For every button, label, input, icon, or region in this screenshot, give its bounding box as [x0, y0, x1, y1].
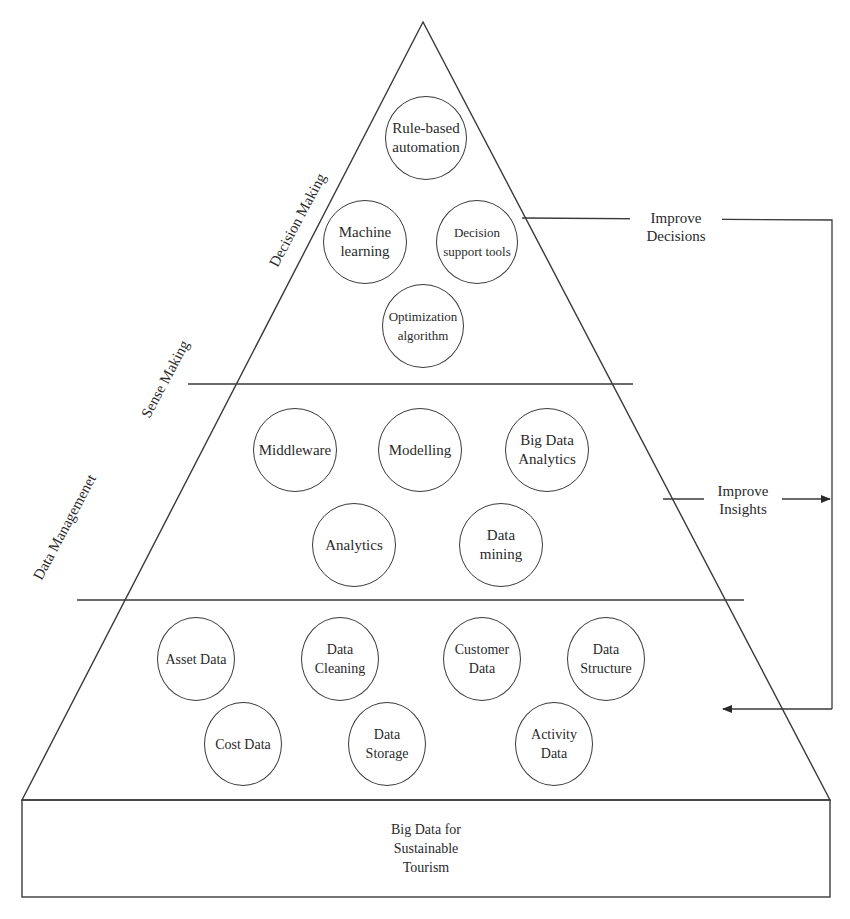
label-improve-decisions: Improve Decisions	[630, 209, 722, 245]
node-activity-data: Activity Data	[515, 702, 593, 786]
node-analytics: Analytics	[312, 503, 396, 587]
node-asset-data: Asset Data	[157, 617, 235, 701]
node-rule-based-automation: Rule-based automation	[385, 96, 467, 180]
node-middleware: Middleware	[253, 408, 337, 492]
label-improve-insights: Improve Insights	[704, 482, 782, 518]
node-customer-data: Customer Data	[443, 617, 521, 701]
node-data-mining: Data mining	[459, 503, 543, 587]
node-cost-data: Cost Data	[204, 702, 282, 786]
node-big-data-analytics: Big Data Analytics	[505, 408, 589, 492]
node-modelling: Modelling	[378, 408, 462, 492]
node-optimization-algorithm: Optimization algorithm	[382, 284, 464, 368]
base-label-big-data-sustainable-tourism: Big Data for Sustainable Tourism	[22, 800, 830, 897]
node-decision-support-tools: Decision support tools	[436, 200, 518, 284]
node-data-structure: Data Structure	[567, 617, 645, 701]
node-data-storage: Data Storage	[348, 702, 426, 786]
node-data-cleaning: Data Cleaning	[301, 617, 379, 701]
node-machine-learning: Machine learning	[323, 200, 407, 284]
